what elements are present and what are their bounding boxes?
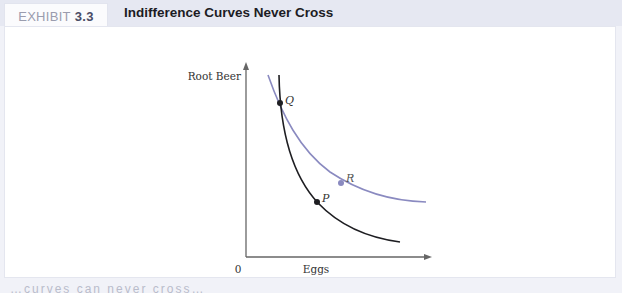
label-r: R [345, 172, 354, 185]
point-r [338, 180, 344, 186]
x-axis-label: Eggs [303, 263, 330, 275]
x-axis-arrow-icon [424, 254, 432, 260]
point-q [277, 100, 283, 106]
cut-off-caption: …curves can never cross… [10, 282, 610, 293]
point-p [314, 199, 320, 205]
label-q: Q [285, 94, 294, 107]
label-p: P [321, 192, 330, 205]
y-axis-arrow-icon [243, 62, 249, 70]
origin-label: 0 [235, 263, 242, 275]
indifference-chart: Root Beer Eggs 0 Q P R [0, 0, 622, 293]
y-axis-label: Root Beer [188, 70, 242, 82]
black-indifference-curve [279, 75, 400, 242]
